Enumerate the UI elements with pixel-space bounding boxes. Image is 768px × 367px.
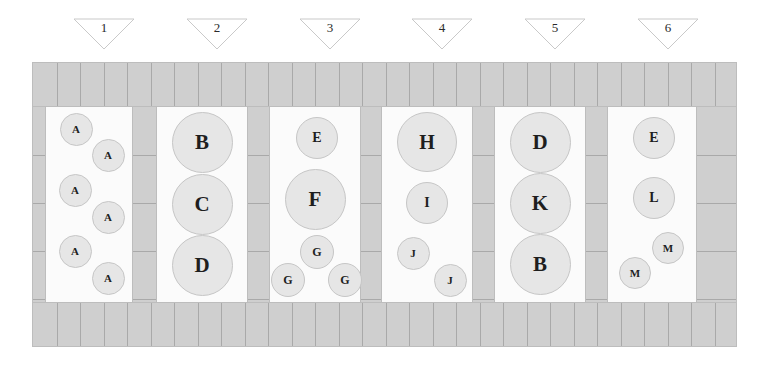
- wall-brick-line: [268, 63, 269, 106]
- vehicle-circle[interactable]: L: [633, 177, 675, 219]
- vehicle-circle[interactable]: G: [328, 263, 362, 297]
- vehicle-circle[interactable]: K: [510, 173, 571, 234]
- vehicle-circle[interactable]: H: [397, 112, 457, 172]
- wall-brick-line: [433, 303, 434, 346]
- vehicle-label: B: [195, 132, 209, 153]
- wall-brick-line: [57, 303, 58, 346]
- vehicle-circle[interactable]: E: [633, 117, 675, 159]
- wall-brick-line: [668, 303, 669, 346]
- wall-brick-line: [198, 303, 199, 346]
- vehicle-label: D: [194, 255, 209, 276]
- entrance-marker-3: 3: [299, 18, 361, 50]
- wall-brick-line: [133, 251, 156, 252]
- vehicle-label: D: [532, 132, 547, 153]
- wall-brick-line: [33, 251, 45, 252]
- wall-brick-line: [104, 63, 105, 106]
- parking-lane-2[interactable]: BCD: [157, 107, 247, 302]
- wall-brick-line: [527, 303, 528, 346]
- vehicle-label: J: [410, 248, 416, 259]
- vehicle-label: G: [340, 274, 349, 286]
- entrance-marker-label: 3: [299, 20, 361, 36]
- vehicle-circle[interactable]: B: [510, 234, 571, 295]
- wall-brick-line: [248, 155, 269, 156]
- wall-brick-line: [644, 63, 645, 106]
- vehicle-circle[interactable]: D: [510, 112, 571, 173]
- vehicle-circle[interactable]: B: [172, 112, 233, 173]
- vehicle-label: G: [312, 246, 321, 258]
- wall-pillar-7: [696, 107, 737, 302]
- wall-brick-line: [586, 203, 607, 204]
- vehicle-circle[interactable]: G: [300, 235, 334, 269]
- parking-lane-1[interactable]: AAAAAA: [46, 107, 132, 302]
- wall-brick-line: [127, 303, 128, 346]
- wall-brick-line: [127, 63, 128, 106]
- vehicle-circle[interactable]: F: [285, 169, 346, 230]
- wall-brick-line: [697, 299, 736, 300]
- wall-brick-line: [315, 303, 316, 346]
- wall-brick-line: [292, 303, 293, 346]
- vehicle-label: M: [630, 268, 640, 279]
- wall-brick-line: [80, 63, 81, 106]
- wall-brick-line: [586, 299, 607, 300]
- wall-brick-line: [386, 303, 387, 346]
- entrance-marker-1: 1: [73, 18, 135, 50]
- wall-brick-line: [174, 63, 175, 106]
- wall-brick-line: [361, 299, 381, 300]
- vehicle-label: H: [419, 132, 435, 152]
- wall-pillar-6: [585, 107, 608, 302]
- vehicle-circle[interactable]: J: [397, 237, 430, 270]
- wall-brick-line: [527, 63, 528, 106]
- wall-brick-line: [480, 63, 481, 106]
- wall-brick-line: [104, 303, 105, 346]
- wall-brick-line: [151, 63, 152, 106]
- wall-brick-line: [697, 203, 736, 204]
- vehicle-circle[interactable]: D: [172, 235, 233, 296]
- vehicle-circle[interactable]: E: [296, 117, 338, 159]
- wall-pillar-3: [247, 107, 270, 302]
- vehicle-circle[interactable]: A: [92, 201, 125, 234]
- wall-brick-line: [268, 303, 269, 346]
- vehicle-circle[interactable]: A: [92, 262, 125, 295]
- wall-brick-line: [621, 303, 622, 346]
- wall-brick-line: [409, 63, 410, 106]
- vehicle-circle[interactable]: A: [59, 174, 92, 207]
- vehicle-label: F: [309, 189, 322, 210]
- wall-brick-line: [586, 155, 607, 156]
- wall-brick-line: [33, 155, 45, 156]
- vehicle-circle[interactable]: A: [59, 235, 92, 268]
- vehicle-label: M: [663, 243, 673, 254]
- wall-brick-line: [133, 299, 156, 300]
- entrance-marker-2: 2: [186, 18, 248, 50]
- vehicle-circle[interactable]: J: [434, 264, 467, 297]
- vehicle-circle[interactable]: A: [92, 139, 125, 172]
- parking-lane-4[interactable]: HIJJ: [382, 107, 472, 302]
- vehicle-circle[interactable]: G: [271, 263, 305, 297]
- vehicle-label: A: [104, 150, 112, 161]
- vehicle-circle[interactable]: M: [652, 232, 684, 264]
- vehicle-label: A: [104, 273, 112, 284]
- wall-brick-line: [315, 63, 316, 106]
- parking-lane-3[interactable]: EFGGG: [270, 107, 360, 302]
- wall-brick-line: [644, 303, 645, 346]
- parking-lane-6[interactable]: ELMM: [608, 107, 696, 302]
- wall-pillar-4: [360, 107, 382, 302]
- entrance-marker-6: 6: [637, 18, 699, 50]
- wall-brick-line: [668, 63, 669, 106]
- bottom-wall-band: [32, 302, 737, 347]
- wall-brick-line: [292, 63, 293, 106]
- wall-brick-line: [715, 63, 716, 106]
- wall-brick-line: [697, 155, 736, 156]
- wall-brick-line: [386, 63, 387, 106]
- vehicle-circle[interactable]: C: [172, 174, 233, 235]
- entrance-marker-label: 5: [524, 20, 586, 36]
- vehicle-circle[interactable]: I: [406, 182, 448, 224]
- wall-brick-line: [597, 303, 598, 346]
- vehicle-label: A: [104, 212, 112, 223]
- wall-brick-line: [245, 63, 246, 106]
- parking-lane-5[interactable]: DKB: [495, 107, 585, 302]
- wall-brick-line: [480, 303, 481, 346]
- wall-brick-line: [574, 63, 575, 106]
- vehicle-circle[interactable]: M: [619, 257, 651, 289]
- vehicle-circle[interactable]: A: [60, 113, 93, 146]
- vehicle-label: E: [649, 131, 658, 145]
